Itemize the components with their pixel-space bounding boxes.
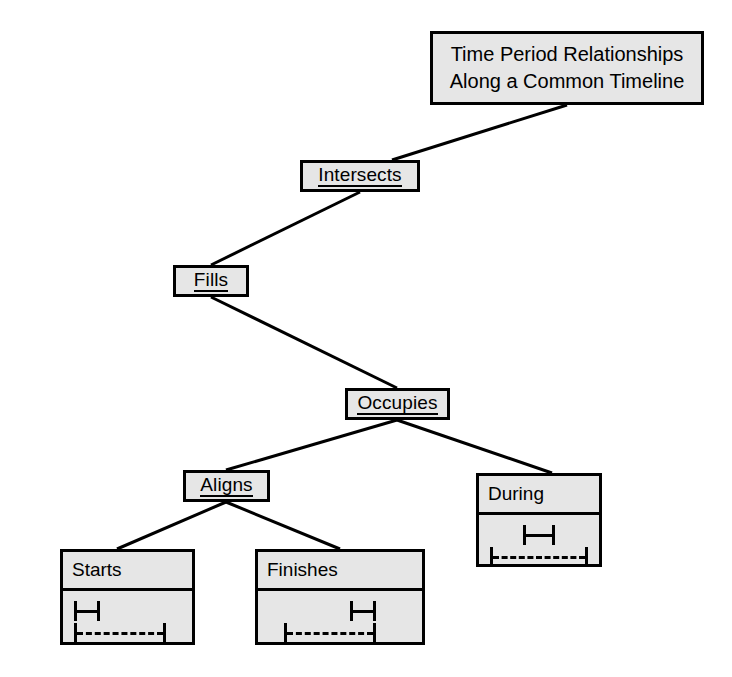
starts-long-bar-row	[74, 622, 181, 644]
finishes-long-bar-row	[269, 622, 376, 644]
node-intersects[interactable]: Intersects	[300, 160, 420, 192]
node-occupies[interactable]: Occupies	[345, 388, 450, 420]
bar-cap-end	[552, 525, 555, 545]
bar-span	[353, 610, 373, 613]
node-starts-header: Starts	[63, 552, 192, 591]
node-time-period-relationships[interactable]: Time Period Relationships Along a Common…	[430, 31, 704, 105]
bar-span	[77, 632, 163, 635]
node-during-label: During	[488, 484, 544, 503]
bar-cap-end	[373, 601, 376, 621]
node-starts[interactable]: Starts	[60, 549, 195, 645]
title-line-2: Along a Common Timeline	[450, 68, 685, 95]
bar-cap-end	[585, 547, 588, 567]
node-during[interactable]: During	[476, 473, 602, 567]
node-starts-label: Starts	[72, 560, 122, 579]
edge-occupies-to-during	[397, 420, 552, 473]
node-finishes-label: Finishes	[267, 560, 338, 579]
during-short-bar-row	[490, 524, 588, 546]
node-starts-timeline	[63, 591, 192, 653]
bar-cap-end	[163, 623, 166, 643]
starts-long-bar	[74, 623, 166, 643]
node-finishes-timeline	[258, 591, 422, 653]
node-fills-label: Fills	[194, 270, 228, 292]
bar-span	[526, 534, 552, 537]
node-occupies-label: Occupies	[357, 393, 437, 415]
during-short-bar	[523, 525, 555, 545]
edge-title-to-intersects	[392, 105, 567, 160]
edge-aligns-to-finishes	[226, 502, 340, 549]
edge-aligns-to-starts	[117, 502, 226, 549]
during-long-bar	[490, 547, 588, 567]
title-line-1: Time Period Relationships	[451, 41, 684, 68]
node-aligns[interactable]: Aligns	[183, 470, 270, 502]
bar-span	[287, 632, 373, 635]
edge-occupies-to-aligns	[226, 420, 397, 470]
node-during-header: During	[479, 476, 599, 515]
node-fills[interactable]: Fills	[173, 265, 249, 297]
bar-cap-end	[373, 623, 376, 643]
during-long-bar-row	[490, 546, 588, 568]
diagram-canvas: Time Period Relationships Along a Common…	[0, 0, 732, 677]
node-intersects-label: Intersects	[318, 165, 401, 187]
node-aligns-label: Aligns	[200, 475, 252, 497]
finishes-short-bar-row	[269, 600, 376, 622]
bar-span	[77, 610, 97, 613]
edge-intersects-to-fills	[211, 192, 360, 265]
starts-short-bar	[74, 601, 100, 621]
starts-short-bar-row	[74, 600, 181, 622]
finishes-long-bar	[284, 623, 376, 643]
bar-span	[493, 556, 585, 559]
finishes-short-bar	[350, 601, 376, 621]
bar-cap-end	[97, 601, 100, 621]
node-during-timeline	[479, 515, 599, 577]
node-finishes[interactable]: Finishes	[255, 549, 425, 645]
edge-fills-to-occupies	[211, 297, 397, 388]
node-finishes-header: Finishes	[258, 552, 422, 591]
